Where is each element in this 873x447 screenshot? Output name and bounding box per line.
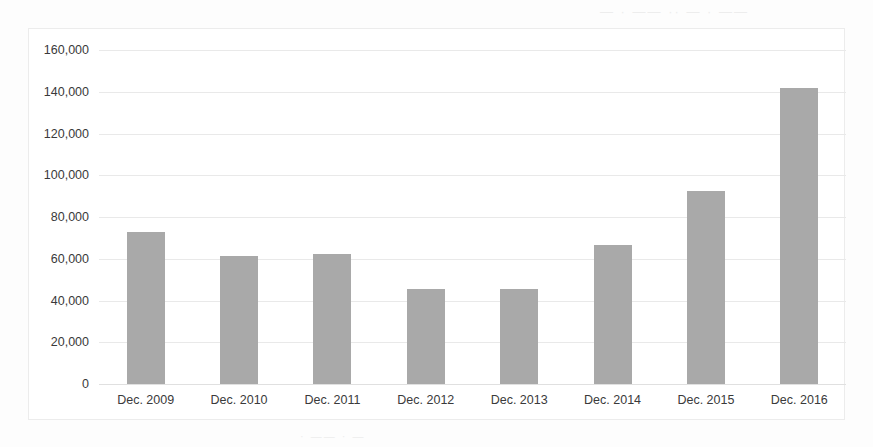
bar-dec-2010[interactable] xyxy=(220,256,258,384)
chart-frame: 020,00040,00060,00080,000100,000120,0001… xyxy=(28,28,845,420)
bar-slot: Dec. 2011 xyxy=(286,50,379,384)
x-tick-label: Dec. 2010 xyxy=(211,393,268,407)
gridline-0 xyxy=(99,384,846,385)
bar-slot: Dec. 2014 xyxy=(566,50,659,384)
bar-slot: Dec. 2010 xyxy=(192,50,285,384)
x-tick-label: Dec. 2016 xyxy=(771,393,828,407)
x-tick-label: Dec. 2011 xyxy=(304,393,360,407)
x-tick-label: Dec. 2015 xyxy=(677,393,734,407)
scan-bleed-artifact-bottom: · —— · — xyxy=(300,430,366,442)
y-tick-label: 160,000 xyxy=(44,43,89,57)
y-tick-label: 80,000 xyxy=(51,210,89,224)
bar-slot: Dec. 2015 xyxy=(659,50,752,384)
y-tick-label: 120,000 xyxy=(44,127,89,141)
scanned-page-background: — · —— ·· — · —— · — ·· — — · —· · —— · … xyxy=(0,0,873,447)
y-tick-label: 20,000 xyxy=(51,335,89,349)
x-tick-label: Dec. 2009 xyxy=(117,393,174,407)
bar-dec-2013[interactable] xyxy=(500,289,538,384)
bar-series: Dec. 2009Dec. 2010Dec. 2011Dec. 2012Dec.… xyxy=(99,50,846,384)
bar-slot: Dec. 2009 xyxy=(99,50,192,384)
y-tick-label: 60,000 xyxy=(51,252,89,266)
y-tick-label: 140,000 xyxy=(44,85,89,99)
x-tick-label: Dec. 2012 xyxy=(397,393,454,407)
plot-area: 020,00040,00060,00080,000100,000120,0001… xyxy=(99,50,846,384)
bar-dec-2016[interactable] xyxy=(780,88,818,384)
y-tick-label: 40,000 xyxy=(51,294,89,308)
bar-slot: Dec. 2012 xyxy=(379,50,472,384)
y-tick-label: 100,000 xyxy=(44,168,89,182)
y-tick-label: 0 xyxy=(82,377,89,391)
bar-slot: Dec. 2016 xyxy=(753,50,846,384)
bar-dec-2009[interactable] xyxy=(127,232,165,384)
bar-dec-2011[interactable] xyxy=(313,254,351,384)
x-tick-label: Dec. 2014 xyxy=(584,393,641,407)
bar-dec-2012[interactable] xyxy=(407,289,445,384)
x-tick-label: Dec. 2013 xyxy=(491,393,548,407)
scan-bleed-artifact-top: — · —— ·· — · —— xyxy=(600,4,749,19)
bar-dec-2015[interactable] xyxy=(687,191,725,384)
bar-dec-2014[interactable] xyxy=(594,245,632,384)
bar-slot: Dec. 2013 xyxy=(473,50,566,384)
